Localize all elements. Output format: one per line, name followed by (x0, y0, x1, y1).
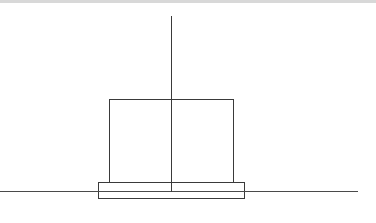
line-diagram (0, 0, 376, 223)
